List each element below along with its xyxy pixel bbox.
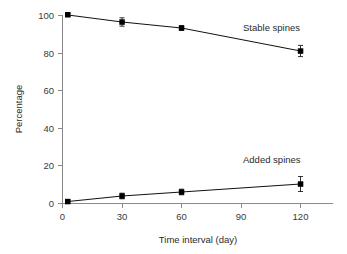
data-point-marker <box>179 189 185 195</box>
series-label-added-spines: Added spines <box>243 154 301 165</box>
series-label-stable-spines: Stable spines <box>243 22 300 33</box>
y-tick-label: 0 <box>49 198 54 209</box>
line-chart-canvas: 0 20 40 60 80 100 0 30 60 90 120 Time in… <box>0 0 347 254</box>
data-point-marker <box>65 199 71 205</box>
x-tick-label: 30 <box>117 211 128 222</box>
y-axis-title: Percentage <box>13 85 24 134</box>
x-tick-label: 60 <box>176 211 187 222</box>
x-axis-title: Time interval (day) <box>159 234 237 245</box>
data-point-marker <box>65 12 71 18</box>
y-tick-label: 100 <box>38 10 54 21</box>
data-point-marker <box>119 19 125 25</box>
y-tick-label: 60 <box>43 85 54 96</box>
data-point-marker <box>298 48 304 54</box>
data-point-marker <box>298 181 304 187</box>
y-tick-label: 20 <box>43 160 54 171</box>
y-tick-label: 40 <box>43 123 54 134</box>
x-tick-label: 0 <box>60 211 65 222</box>
data-point-marker <box>179 25 185 31</box>
y-tick-label: 80 <box>43 48 54 59</box>
data-point-marker <box>119 193 125 199</box>
chart-figure: 0 20 40 60 80 100 0 30 60 90 120 Time in… <box>0 0 347 254</box>
x-tick-label: 90 <box>236 211 247 222</box>
x-tick-label: 120 <box>293 211 309 222</box>
